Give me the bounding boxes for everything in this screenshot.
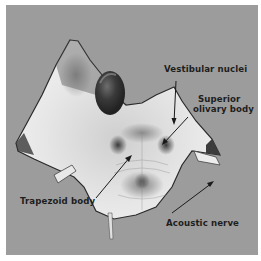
label-superior-olivary-line2: olivary body [193,104,254,114]
figure-frame: Vestibular nuclei Superior olivary body … [0,0,261,261]
leader-acoustic [172,183,212,213]
label-vestibular-nuclei: Vestibular nuclei [164,64,247,74]
bottom-strand [108,213,113,239]
label-superior-olivary-line1: Superior [198,94,240,104]
label-trapezoid-body: Trapezoid body [20,196,95,206]
label-acoustic-nerve: Acoustic nerve [166,218,239,228]
specimen-photo: Vestibular nuclei Superior olivary body … [6,5,258,255]
